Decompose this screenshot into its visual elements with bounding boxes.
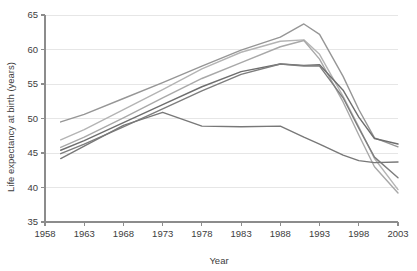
line-series-2	[61, 40, 398, 190]
line-series-5	[61, 64, 398, 178]
x-tick-label: 1958	[34, 228, 55, 239]
x-axis-title: Year	[209, 255, 228, 266]
y-tick-label: 60	[27, 44, 38, 55]
x-tick-label: 1983	[231, 228, 252, 239]
y-tick-label: 65	[27, 9, 38, 20]
x-tick-label: 1963	[74, 228, 95, 239]
axes	[41, 15, 398, 226]
x-tick-label: 1998	[348, 228, 369, 239]
y-tick-label: 45	[27, 147, 38, 158]
chart-canvas: 3540455055606519581963196819731978198319…	[0, 0, 417, 271]
x-tick-label: 1973	[152, 228, 173, 239]
life-expectancy-line-chart: 3540455055606519581963196819731978198319…	[0, 0, 417, 271]
x-tick-label: 2003	[387, 228, 408, 239]
tick-labels: 3540455055606519581963196819731978198319…	[27, 9, 408, 239]
y-tick-label: 35	[27, 216, 38, 227]
line-series-6	[61, 112, 398, 162]
x-tick-label: 1993	[309, 228, 330, 239]
y-tick-label: 40	[27, 182, 38, 193]
line-series-3	[61, 41, 398, 193]
y-tick-label: 55	[27, 78, 38, 89]
y-tick-label: 50	[27, 113, 38, 124]
x-tick-label: 1968	[113, 228, 134, 239]
x-tick-label: 1988	[270, 228, 291, 239]
y-axis-title: Life expectancy at birth (years)	[5, 62, 16, 192]
x-tick-label: 1978	[191, 228, 212, 239]
